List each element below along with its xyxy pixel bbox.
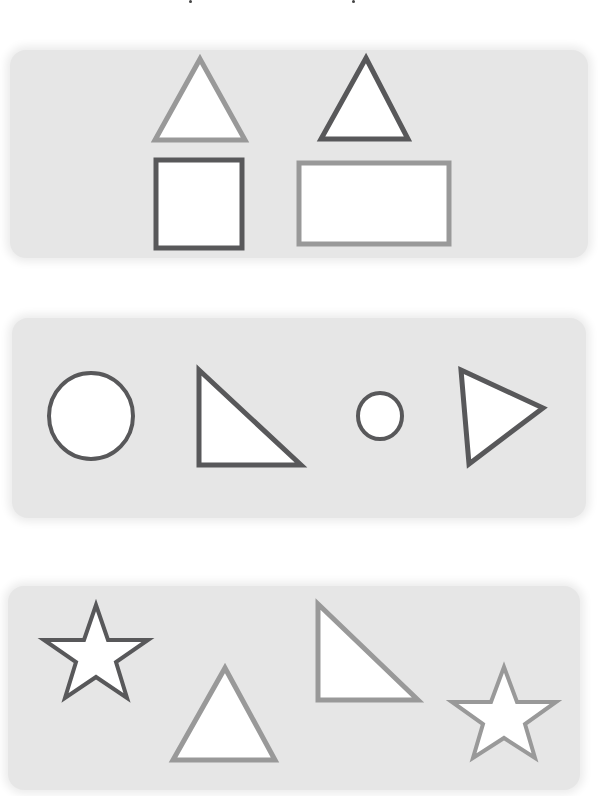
right-pointing-triangle-shape: [461, 370, 543, 464]
small-circle-shape: [358, 393, 402, 439]
right-triangle-shape: [199, 370, 301, 465]
light-rectangle-shape: [299, 163, 449, 244]
dark-star-shape: [44, 605, 148, 698]
light-star-shape: [452, 667, 556, 758]
light-triangle-shape: [155, 59, 245, 140]
dark-square-shape: [156, 160, 242, 248]
light-right-triangle-shape: [318, 604, 418, 700]
shapes-canvas: [0, 0, 598, 796]
large-circle-shape: [49, 373, 133, 459]
light-triangle-shape-2: [173, 668, 275, 760]
dark-triangle-shape: [321, 58, 408, 139]
